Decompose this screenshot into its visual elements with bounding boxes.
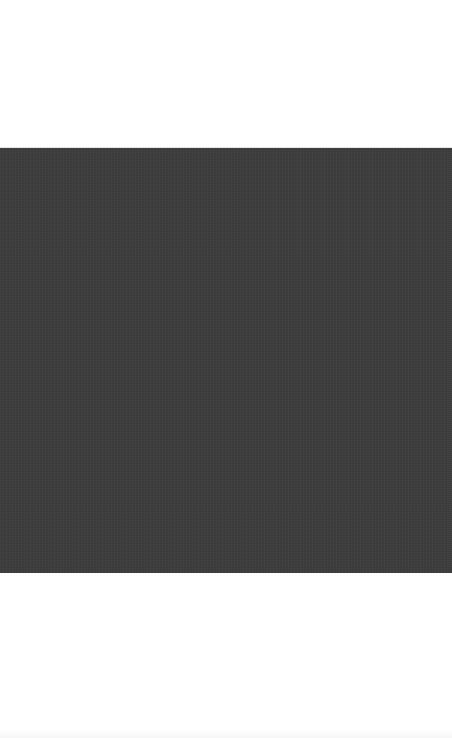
bottom-area	[0, 573, 452, 738]
media-placeholder[interactable]	[0, 148, 452, 573]
screen	[0, 0, 452, 738]
bottom-bar	[0, 730, 452, 738]
top-area	[0, 0, 452, 148]
